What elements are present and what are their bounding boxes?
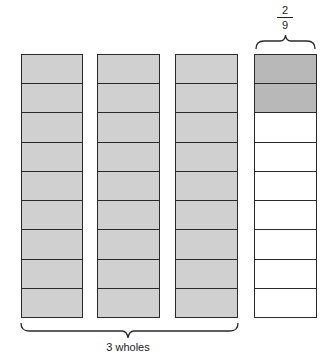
bottom-brace-icon [0,0,333,362]
wholes-label: 3 wholes [88,341,168,353]
